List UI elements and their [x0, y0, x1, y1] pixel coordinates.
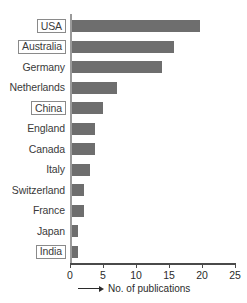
x-axis-tick-label: 5 [100, 269, 106, 281]
x-axis-title-label: No. of publications [108, 283, 190, 294]
bar-row [71, 201, 236, 222]
bar [71, 164, 90, 176]
bar-row [71, 98, 236, 119]
x-axis-tick [169, 263, 170, 268]
category-label: China [31, 101, 66, 115]
x-axis-tick [103, 263, 104, 268]
category-label-row: Germany [0, 57, 68, 78]
y-axis-line [70, 14, 72, 264]
category-label-row: Netherlands [0, 78, 68, 99]
bar [71, 143, 95, 155]
category-label-row: China [0, 98, 68, 119]
x-axis-tick [235, 263, 236, 268]
bar-row [71, 119, 236, 140]
category-label-row: Australia [0, 37, 68, 58]
category-label-row: France [0, 201, 68, 222]
bar-row [71, 139, 236, 160]
x-axis-tick-label: 25 [229, 269, 241, 281]
category-label: India [36, 245, 66, 259]
bar [71, 61, 162, 73]
category-label: Italy [45, 164, 66, 175]
category-label: Canada [28, 144, 66, 155]
category-label-row: Japan [0, 221, 68, 242]
category-label-row: Canada [0, 139, 68, 160]
publications-bar-chart: USAAustraliaGermanyNetherlandsChinaEngla… [0, 0, 247, 303]
bars-container [71, 16, 236, 262]
x-axis-tick [136, 263, 137, 268]
category-label-row: Switzerland [0, 180, 68, 201]
category-label-row: USA [0, 16, 68, 37]
plot-area: USAAustraliaGermanyNetherlandsChinaEngla… [0, 0, 247, 303]
bar [71, 82, 117, 94]
x-axis-tick [70, 263, 71, 268]
bar [71, 41, 174, 53]
x-axis-tick [202, 263, 203, 268]
bar [71, 225, 78, 237]
category-label: Germany [22, 62, 66, 73]
category-label-row: England [0, 119, 68, 140]
category-label: Japan [36, 226, 66, 237]
x-axis-tick-label: 15 [163, 269, 175, 281]
category-label: Australia [18, 40, 66, 54]
x-axis-tick-label: 20 [196, 269, 208, 281]
category-label: Netherlands [8, 82, 66, 93]
x-axis-line [70, 263, 236, 265]
bar [71, 102, 103, 114]
category-axis-labels: USAAustraliaGermanyNetherlandsChinaEngla… [0, 16, 68, 262]
x-axis-tick-label: 10 [130, 269, 142, 281]
bar [71, 123, 95, 135]
bar-row [71, 16, 236, 37]
x-axis-title: No. of publications [78, 283, 190, 294]
bar-row [71, 242, 236, 263]
category-label: England [26, 123, 66, 134]
bar [71, 20, 200, 32]
category-label: USA [37, 19, 66, 33]
bar-row [71, 160, 236, 181]
x-axis-tick-label: 0 [67, 269, 73, 281]
arrow-right-icon [78, 285, 104, 292]
bar-row [71, 37, 236, 58]
bar [71, 246, 78, 258]
category-label: Switzerland [11, 185, 66, 196]
bar-row [71, 78, 236, 99]
bar-row [71, 57, 236, 78]
bar-row [71, 221, 236, 242]
bar-row [71, 180, 236, 201]
category-label-row: Italy [0, 160, 68, 181]
bar [71, 184, 84, 196]
category-label: France [32, 205, 66, 216]
category-label-row: India [0, 242, 68, 263]
bar [71, 205, 84, 217]
